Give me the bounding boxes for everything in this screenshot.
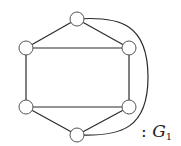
edge-top-bottom-curved [77,18,148,135]
edge-top-upper-left [26,19,77,48]
node-upper-right [122,41,136,55]
graph-diagram: : G1 [0,0,181,146]
node-top [70,12,84,26]
edge-lower-left-bottom [26,107,77,135]
label-prefix: : [141,121,147,141]
label-name: G [152,121,166,141]
edge-lower-right-bottom [77,107,129,135]
node-lower-right [122,100,136,114]
node-upper-left [19,41,33,55]
graph-label: : G1 [141,121,172,142]
label-subscript: 1 [166,131,172,142]
node-lower-left [19,100,33,114]
node-bottom [70,128,84,142]
